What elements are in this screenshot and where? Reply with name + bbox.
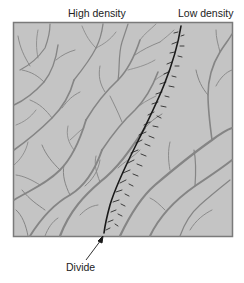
- map-panel: [14, 23, 233, 237]
- drainage-density-diagram: [0, 0, 244, 283]
- divide-arrow: [86, 236, 103, 260]
